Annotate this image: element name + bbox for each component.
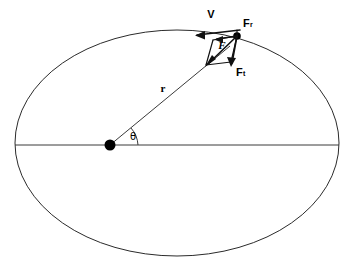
lower-component-label: F [236, 66, 243, 78]
upper-component-label: F [243, 17, 250, 29]
orbit-force-diagram: V F F r F t r θ [0, 0, 354, 271]
upper-component-label-group: F r [243, 17, 253, 29]
lower-component-label-group: F t [236, 66, 246, 78]
orbit-ellipse [15, 30, 339, 256]
upper-component-subscript: r [250, 21, 253, 28]
velocity-label: V [207, 8, 215, 20]
velocity-vector-arrowhead [195, 31, 205, 40]
radius-label: r [161, 82, 166, 94]
focus-dot [105, 140, 116, 151]
resultant-force-label: F [217, 39, 226, 51]
angle-label: θ [130, 131, 136, 142]
lower-component-subscript: t [243, 70, 246, 77]
orbit-diagram-canvas: V F F r F t r θ [0, 0, 354, 271]
